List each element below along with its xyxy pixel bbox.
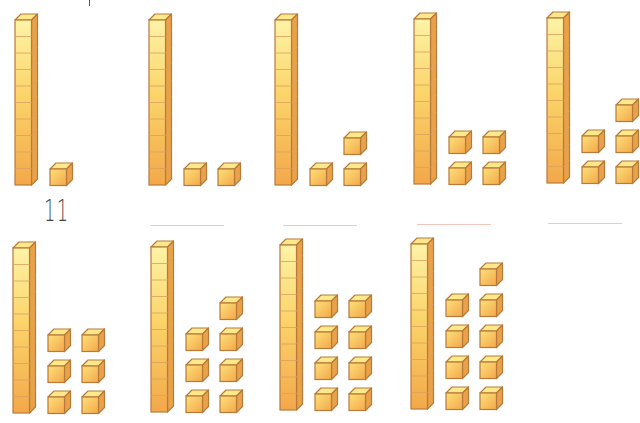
unit-cube — [185, 327, 210, 352]
stray-pen-mark — [89, 0, 90, 6]
unit-cube — [445, 324, 470, 349]
unit-cube — [219, 389, 244, 414]
unit-cube — [479, 262, 504, 287]
unit-cube — [219, 296, 244, 321]
unit-cube — [348, 356, 373, 381]
answer-line-group-4[interactable] — [417, 224, 491, 225]
ten-rod — [546, 11, 571, 184]
unit-cube — [314, 356, 339, 381]
unit-cube — [348, 325, 373, 350]
ten-rod — [12, 241, 37, 414]
unit-cube — [448, 130, 473, 155]
ten-rod — [279, 238, 304, 411]
unit-cube — [314, 387, 339, 412]
unit-cube — [615, 129, 640, 154]
unit-cube — [309, 162, 334, 187]
unit-cube — [482, 161, 507, 186]
unit-cube — [348, 294, 373, 319]
unit-cube — [81, 328, 106, 353]
unit-cube — [217, 162, 242, 187]
unit-cube — [185, 358, 210, 383]
unit-cube — [479, 293, 504, 318]
unit-cube — [81, 390, 106, 415]
unit-cube — [49, 162, 74, 187]
unit-cube — [314, 294, 339, 319]
unit-cube — [581, 160, 606, 185]
unit-cube — [479, 355, 504, 380]
unit-cube — [445, 293, 470, 318]
unit-cube — [343, 162, 368, 187]
unit-cube — [185, 389, 210, 414]
unit-cube — [314, 325, 339, 350]
answer-11: 11 — [44, 193, 69, 228]
unit-cube — [445, 355, 470, 380]
answer-line-group-5[interactable] — [548, 223, 622, 224]
answer-line-group-3[interactable] — [283, 225, 357, 226]
ten-rod — [274, 13, 299, 186]
unit-cube — [479, 386, 504, 411]
answer-line-group-2[interactable] — [150, 225, 224, 226]
ten-rod — [14, 13, 39, 186]
unit-cube — [47, 328, 72, 353]
unit-cube — [47, 359, 72, 384]
unit-cube — [615, 98, 640, 123]
unit-cube — [482, 130, 507, 155]
unit-cube — [219, 327, 244, 352]
unit-cube — [348, 387, 373, 412]
unit-cube — [581, 129, 606, 154]
unit-cube — [479, 324, 504, 349]
unit-cube — [445, 386, 470, 411]
unit-cube — [183, 162, 208, 187]
ten-rod — [410, 237, 435, 410]
unit-cube — [219, 358, 244, 383]
unit-cube — [81, 359, 106, 384]
unit-cube — [615, 160, 640, 185]
unit-cube — [448, 161, 473, 186]
ten-rod — [150, 240, 175, 413]
ten-rod — [413, 12, 438, 185]
unit-cube — [47, 390, 72, 415]
unit-cube — [343, 131, 368, 156]
ten-rod — [148, 13, 173, 186]
